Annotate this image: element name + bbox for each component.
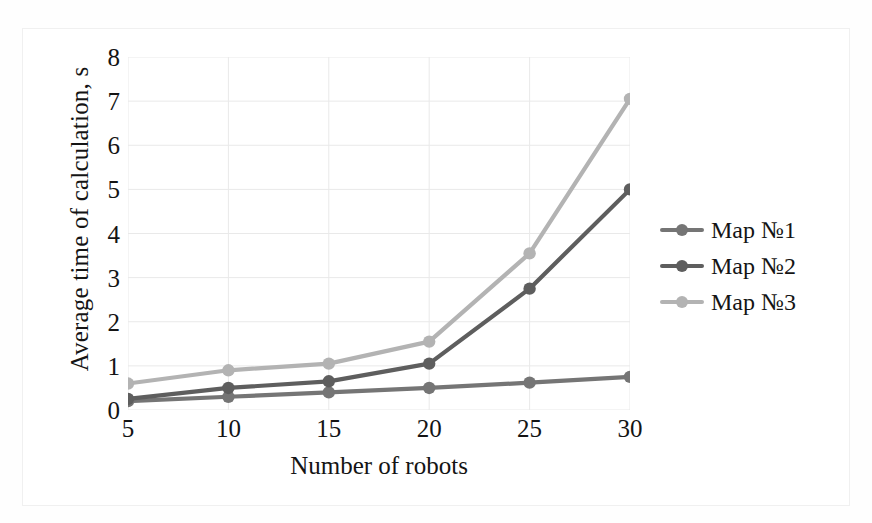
data-point [323, 375, 335, 387]
legend-item[interactable]: Map №1 [660, 212, 840, 248]
plot-area [128, 57, 630, 410]
chart-legend: Map №1Map №2Map №3 [660, 212, 840, 320]
data-point [323, 357, 335, 369]
data-point [624, 371, 630, 383]
data-point [523, 282, 535, 294]
legend-label: Map №2 [711, 254, 796, 278]
y-tick-label: 8 [80, 45, 120, 70]
x-tick-label: 30 [600, 416, 660, 441]
legend-label: Map №3 [711, 290, 796, 314]
data-point [523, 376, 535, 388]
gridlines [128, 57, 630, 410]
x-tick-label: 15 [299, 416, 359, 441]
y-tick-label: 5 [80, 177, 120, 202]
legend-marker-icon [660, 223, 704, 237]
y-tick-label: 6 [80, 133, 120, 158]
data-point [222, 364, 234, 376]
legend-marker-icon [660, 259, 704, 273]
legend-label: Map №1 [711, 218, 796, 242]
y-tick-label: 2 [80, 310, 120, 335]
series-line [128, 189, 630, 399]
legend-item[interactable]: Map №2 [660, 248, 840, 284]
y-tick-label: 7 [80, 89, 120, 114]
y-tick-label: 4 [80, 222, 120, 247]
legend-dot-icon [676, 224, 688, 236]
y-axis-tick-labels: 012345678 [78, 57, 120, 410]
data-point [423, 382, 435, 394]
series-line [128, 99, 630, 384]
data-point [128, 377, 134, 389]
legend-item[interactable]: Map №3 [660, 284, 840, 320]
data-series [128, 93, 630, 408]
data-point [323, 386, 335, 398]
data-point [423, 335, 435, 347]
x-tick-label: 5 [98, 416, 158, 441]
legend-dot-icon [676, 296, 688, 308]
legend-dot-icon [676, 260, 688, 272]
chart-figure: Average time of calculation, s 012345678… [0, 0, 872, 523]
x-axis-title: Number of robots [128, 452, 630, 480]
y-tick-label: 1 [80, 354, 120, 379]
y-tick-label: 3 [80, 266, 120, 291]
x-tick-label: 25 [500, 416, 560, 441]
data-point [423, 357, 435, 369]
data-point [523, 247, 535, 259]
x-tick-label: 20 [399, 416, 459, 441]
plot-svg [128, 57, 630, 410]
legend-marker-icon [660, 295, 704, 309]
data-point [222, 382, 234, 394]
x-tick-label: 10 [198, 416, 258, 441]
x-axis-tick-labels: 51015202530 [128, 416, 630, 450]
